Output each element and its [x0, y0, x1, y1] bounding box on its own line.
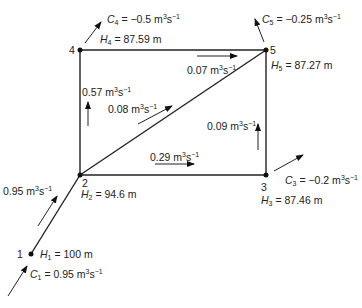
flow-label-1-2: 0.95 m3s−1 — [3, 183, 52, 197]
demand-arrow-1 — [8, 266, 27, 296]
node-4-demand-label: C4 = −0.5 m3s−1 — [107, 11, 180, 29]
node-5-head-label: H5 = 87.27 m — [271, 59, 332, 75]
node-1-head-label: H1 = 100 m — [40, 248, 93, 264]
demand-arrow-4 — [85, 22, 101, 43]
node-2-head-label: H2 = 94.6 m — [81, 188, 137, 204]
node-4-head-label: H4 = 87.59 m — [100, 33, 161, 49]
node-3-number: 3 — [261, 181, 267, 193]
node-4 — [78, 48, 83, 53]
node-5-demand-label: C5 = −0.25 m3s−1 — [262, 11, 341, 29]
flow-label-2-5: 0.08 m3s−1 — [108, 101, 157, 115]
node-5-number: 5 — [270, 44, 276, 56]
flow-label-3-5: 0.09 m3s−1 — [207, 118, 256, 132]
node-3-demand-label: C3 = −0.2 m3s−1 — [285, 172, 358, 190]
flow-label-2-4: 0.57 m3s−1 — [82, 84, 131, 98]
node-5 — [264, 48, 269, 53]
node-4-number: 4 — [69, 44, 75, 56]
node-3 — [264, 173, 269, 178]
flow-label-2-3: 0.29 m3s−1 — [150, 149, 199, 163]
flow-label-4-5: 0.07 m3s−1 — [187, 62, 236, 76]
node-1 — [29, 252, 34, 257]
flow-arrow-1-2 — [38, 196, 57, 226]
node-1-demand-label: C1 = 0.95 m3s−1 — [30, 266, 103, 284]
demand-arrow-3 — [274, 155, 303, 171]
node-1-number: 1 — [17, 248, 23, 260]
node-3-head-label: H3 = 87.46 m — [261, 194, 322, 210]
